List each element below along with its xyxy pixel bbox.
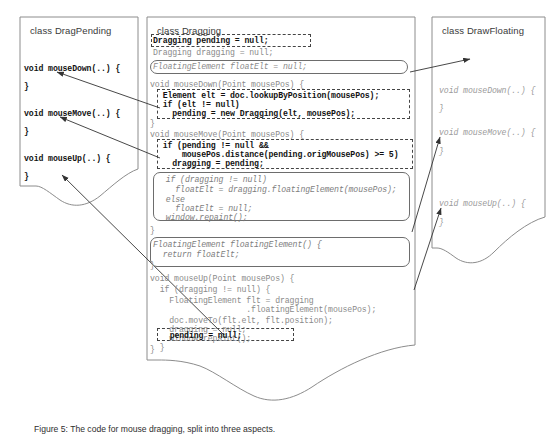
panel-title-drawfloating: class DrawFloating (442, 25, 524, 36)
mid-line-9: if (pending != null && (153, 141, 269, 150)
right-line-0: void mouseDown(..) { (439, 86, 535, 95)
mid-line-5: if (elt != null) (153, 100, 240, 109)
connector-mousedown-to-dragpending (57, 72, 160, 108)
panel-title-dragging: class Dragging (157, 25, 221, 36)
right-line-3: } (439, 147, 444, 156)
mid-line-25: doc.moveTo(flt.elt, flt.position); (150, 316, 333, 325)
mid-line-19: return floatElt; (153, 250, 240, 259)
mid-line-20: } (150, 261, 155, 270)
mid-line-23: FloatingElement flt = dragging (150, 296, 314, 305)
left-line-4: void mouseUp(..) { (24, 154, 111, 163)
mid-line-10: mousePos.distance(pending.origMousePos) … (153, 150, 398, 159)
mid-line-21: void mouseUp(Point mousePos) { (150, 274, 294, 283)
right-line-2: void mouseMove(..) { (439, 128, 535, 137)
figure-caption: Figure 5: The code for mouse dragging, s… (34, 424, 534, 435)
left-line-0: void mouseDown(..) { (24, 64, 120, 73)
left-line-3: } (24, 127, 29, 136)
left-line-5: } (24, 172, 29, 181)
connector-floatbox-to-mousemove (412, 137, 440, 232)
panel-title-dragpending: class DragPending (30, 25, 111, 36)
mid-line-0: Dragging pending = null; (153, 36, 269, 45)
mid-line-16: window.repaint(); (156, 213, 247, 222)
connector-mousemove-to-dragpending (60, 117, 160, 158)
mid-line-12: if (dragging != null) (156, 175, 267, 184)
mid-line-1: Dragging dragging = null; (153, 48, 273, 57)
left-line-1: } (24, 82, 29, 91)
mid-line-18: FloatingElement floatingElement() { (153, 240, 321, 249)
mid-line-29: pending = null; (160, 331, 242, 340)
mid-line-6: pending = new Dragging(elt, mousePos); (153, 109, 355, 118)
mid-line-3: void mouseDown(Point mousePos) { (150, 80, 304, 89)
mid-line-4: Element elt = doc.lookupByPosition(mouse… (153, 91, 379, 100)
connector-floatmethod-to-mouseup (414, 208, 441, 290)
right-line-4: void mouseUp(..) { (439, 199, 526, 208)
mid-line-7: } (150, 119, 155, 128)
mid-line-15: floatElt = null; (156, 204, 252, 213)
mid-line-30: } (150, 345, 155, 354)
left-line-2: void mouseMove(..) { (24, 109, 120, 118)
panel-drawfloating-outline (432, 17, 545, 263)
mid-line-24: .floatingElement(mousePos); (150, 305, 376, 314)
mid-line-22: if (dragging != null) { (150, 285, 270, 294)
connector-floatelt-to-drawfloating (410, 59, 470, 72)
figure-canvas: class DragPending void mouseDown(..) { }… (0, 0, 559, 435)
right-line-5: } (439, 218, 444, 227)
mid-line-17: } (150, 226, 155, 235)
mid-line-2: FloatingElement floatElt = null; (153, 62, 307, 71)
mid-line-13: floatElt = dragging.floatingElement(mous… (156, 185, 397, 194)
mid-line-14: else (156, 195, 185, 204)
mid-line-8: void mouseMove(Point mousePos) { (150, 130, 304, 139)
mid-line-11: dragging = pending; (153, 159, 264, 168)
right-line-1: } (439, 104, 444, 113)
